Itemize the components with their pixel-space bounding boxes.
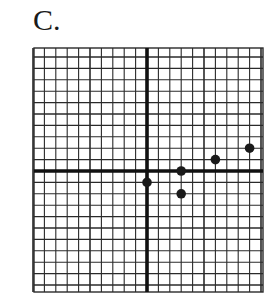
data-point (211, 155, 221, 165)
data-point (176, 166, 186, 176)
data-point (176, 189, 186, 199)
data-point (142, 178, 152, 188)
axes (34, 48, 263, 292)
coordinate-grid-plot (0, 0, 277, 303)
data-point (245, 143, 255, 153)
